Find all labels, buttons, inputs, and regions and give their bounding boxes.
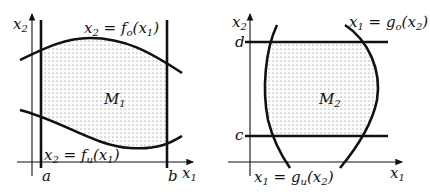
bound-d-label: d — [235, 33, 245, 51]
left-curve-label: x1 = gu(x2) — [254, 168, 334, 187]
right-diagram: x2 x1 d c M2 x1 = go(x2) x1 = gu(x2) — [228, 13, 428, 187]
bound-b-label: b — [168, 167, 178, 185]
left-diagram: x2 x1 a b M1 x2 = fo(x1) x2 = fu(x1) — [13, 14, 197, 185]
region-m1-fill — [20, 38, 182, 148]
left-x-axis-label: x1 — [182, 164, 197, 183]
lower-curve-label: x2 = fu(x1) — [44, 146, 120, 165]
bound-c-label: c — [235, 126, 244, 144]
right-curve-label: x1 = go(x2) — [349, 13, 428, 32]
right-y-axis-label: x2 — [232, 13, 247, 32]
left-y-axis-label: x2 — [13, 15, 28, 34]
upper-curve-label: x2 = fo(x1) — [84, 19, 159, 38]
integration-regions-figure: x2 x1 a b M1 x2 = fo(x1) x2 = fu(x1) x2 … — [0, 0, 430, 194]
right-x-axis-label: x1 — [390, 164, 405, 183]
bound-a-label: a — [42, 167, 51, 185]
